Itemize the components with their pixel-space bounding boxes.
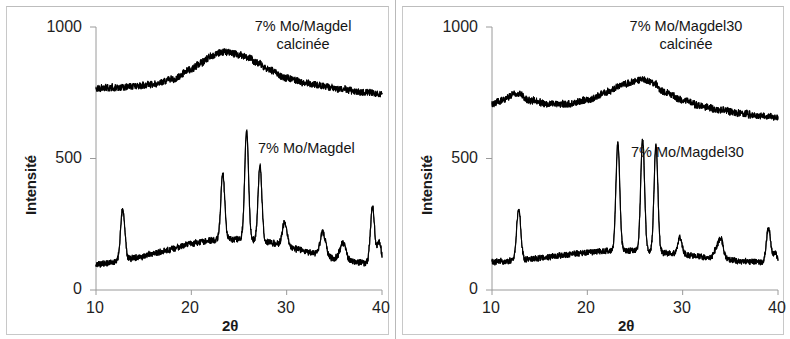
chart-panel-left: Intensité 2θ 1000 500 0 10 20 30 40 7% M… <box>0 0 396 339</box>
series-annotation-upper-line1-right: 7% Mo/Magdel30 <box>596 17 776 35</box>
series-annotation-lower-line1-left: 7% Mo/Magdel <box>258 139 355 157</box>
x-axis-title-right: 2θ <box>618 317 634 334</box>
series-annotation-upper-line2-right: calcinée <box>596 35 776 53</box>
series-annotation-upper-left: 7% Mo/Magdel calcinée <box>228 17 378 53</box>
x-tick-label-30-left: 30 <box>277 299 295 317</box>
x-tick-label-30-right: 30 <box>673 299 691 317</box>
x-tick-label-20-left: 20 <box>181 299 199 317</box>
series-annotation-upper-right: 7% Mo/Magdel30 calcinée <box>596 17 776 53</box>
series-annotation-upper-line1-left: 7% Mo/Magdel <box>228 17 378 35</box>
x-tick-label-10-right: 10 <box>482 299 500 317</box>
series-annotation-lower-right: 7% Mo/Magdel30 <box>631 143 744 161</box>
x-tick-label-10-left: 10 <box>86 299 104 317</box>
x-tick-label-40-left: 40 <box>372 299 390 317</box>
series-annotation-lower-line1-right: 7% Mo/Magdel30 <box>631 143 744 161</box>
xrd-figure: Intensité 2θ 1000 500 0 10 20 30 40 7% M… <box>0 0 790 339</box>
chart-panel-right: Intensité 2θ 1000 500 0 10 20 30 40 7% M… <box>396 0 790 339</box>
series-annotation-lower-left: 7% Mo/Magdel <box>258 139 355 157</box>
x-axis-title-left: 2θ <box>222 317 238 334</box>
series-annotation-upper-line2-left: calcinée <box>228 35 378 53</box>
y-tick-label-1000-right: 1000 <box>418 18 478 36</box>
y-tick-label-500-right: 500 <box>418 149 478 167</box>
x-tick-label-20-right: 20 <box>577 299 595 317</box>
x-tick-label-40-right: 40 <box>768 299 786 317</box>
y-tick-label-500-left: 500 <box>22 149 82 167</box>
y-tick-label-0-left: 0 <box>22 280 82 298</box>
y-tick-label-0-right: 0 <box>418 280 478 298</box>
y-tick-label-1000-left: 1000 <box>22 18 82 36</box>
